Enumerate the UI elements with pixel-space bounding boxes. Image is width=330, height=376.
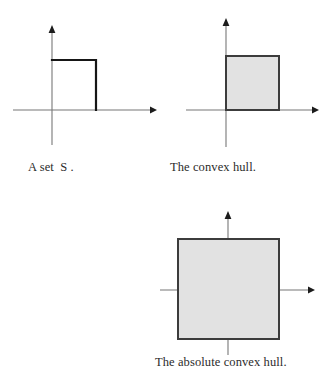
convex-hull-region — [226, 56, 279, 110]
x-axis-arrowhead-icon — [312, 107, 319, 114]
x-axis-arrowhead-icon — [150, 107, 157, 114]
figure-panel-absolute-convex-hull: The absolute convex hull. — [140, 190, 330, 376]
figure-panel-set: A set S . — [0, 0, 165, 190]
y-axis-arrowhead-icon — [223, 18, 230, 26]
y-axis-arrowhead-icon — [225, 211, 232, 219]
caption-set: A set S . — [28, 160, 74, 175]
figure-panel-convex-hull: The convex hull. — [165, 0, 330, 190]
set-diagram — [0, 0, 165, 155]
caption-convex-hull: The convex hull. — [170, 160, 256, 175]
set-s-outline — [52, 60, 96, 110]
x-axis-arrowhead-icon — [308, 287, 315, 294]
caption-absolute-convex-hull: The absolute convex hull. — [155, 355, 287, 370]
absolute-convex-hull-region — [178, 239, 279, 339]
y-axis-arrowhead-icon — [49, 25, 56, 33]
absolute-convex-hull-diagram — [140, 190, 330, 360]
convex-hull-diagram — [165, 0, 330, 155]
